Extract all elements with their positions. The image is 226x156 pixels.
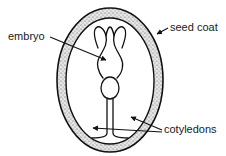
seed-coat-pointer (157, 28, 168, 34)
embryo-label: embryo (8, 31, 45, 42)
cotyledons-label: cotyledons (164, 124, 217, 135)
seed-coat-label: seed coat (170, 22, 218, 33)
